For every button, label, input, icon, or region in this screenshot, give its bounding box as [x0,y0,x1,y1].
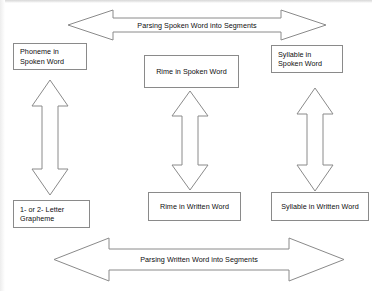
node-line-2: Spoken Word [278,59,322,69]
scan-edge-artifact-top [0,0,372,3]
node-phoneme-in-spoken-word: Phoneme in Spoken Word [13,43,87,70]
node-rime-in-written-word: Rime in Written Word [148,192,241,221]
node-syllable-in-written-word: Syllable in Written Word [271,192,369,221]
arrow-connector-rime [170,90,210,191]
arrow-connector-phoneme-grapheme [30,79,70,196]
node-line-1: Phoneme in [20,47,59,57]
node-syllable-in-spoken-word: Syllable in Spoken Word [271,45,343,73]
arrow-label-parsing-written-word: Parsing Written Word into Segments [53,255,345,264]
node-line-1: Syllable in Written Word [281,202,359,212]
node-line-1: 1- or 2- Letter [20,205,64,215]
arrow-connector-syllable [295,87,335,192]
node-line-2: Grapheme [20,214,54,224]
node-letter-grapheme: 1- or 2- Letter Grapheme [13,200,90,228]
arrow-label-parsing-spoken-word: Parsing Spoken Word into Segments [67,21,327,30]
scan-edge-artifact-left [0,0,5,291]
node-line-1: Rime in Written Word [160,202,229,212]
node-line-1: Syllable in [278,50,311,60]
diagram-canvas: Parsing Spoken Word into Segments Phonem… [0,0,372,291]
node-rime-in-spoken-word: Rime in Spoken Word [144,55,239,88]
node-line-1: Rime in Spoken Word [156,67,227,77]
node-line-2: Spoken Word [20,57,64,67]
